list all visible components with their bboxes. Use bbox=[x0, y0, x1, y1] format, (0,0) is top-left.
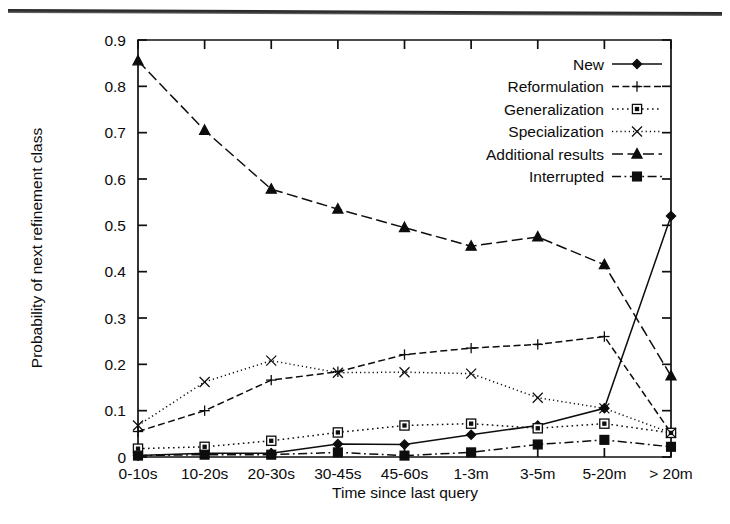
x-tick-label: 20-30s bbox=[248, 465, 296, 482]
y-tick-label: 0.5 bbox=[104, 217, 126, 234]
chart-legend: NewReformulationGeneralizationSpecializa… bbox=[486, 56, 662, 186]
y-axis-title: Probability of next refinement class bbox=[28, 128, 45, 369]
data-point-marker bbox=[199, 405, 209, 415]
data-point-marker bbox=[133, 426, 143, 436]
data-point-marker bbox=[200, 450, 209, 459]
legend-label: Reformulation bbox=[508, 78, 605, 95]
legend-label: Interrupted bbox=[529, 168, 604, 185]
data-point-marker bbox=[333, 448, 342, 457]
legend-label: Additional results bbox=[486, 146, 604, 163]
data-point-marker bbox=[200, 125, 210, 134]
scanned-page: 00.10.20.30.40.50.60.70.80.9 0-10s10-20s… bbox=[0, 0, 730, 524]
y-tick-label: 0.8 bbox=[104, 78, 126, 95]
data-point-marker bbox=[533, 424, 542, 433]
data-point-marker bbox=[467, 448, 476, 457]
data-point-marker bbox=[632, 81, 642, 91]
data-point-marker bbox=[333, 367, 343, 377]
legend-label: Specialization bbox=[508, 123, 604, 140]
legend-item-generalization[interactable]: Generalization bbox=[504, 101, 662, 118]
data-point-marker bbox=[467, 419, 476, 428]
data-point-marker bbox=[400, 440, 409, 449]
x-tick-label: 10-20s bbox=[181, 465, 229, 482]
data-point-marker bbox=[266, 356, 276, 366]
data-point-marker bbox=[333, 428, 342, 437]
legend-item-specialization[interactable]: Specialization bbox=[508, 123, 662, 140]
y-tick-label: 0.3 bbox=[104, 310, 126, 327]
series-line bbox=[138, 216, 671, 456]
legend-label: New bbox=[573, 56, 605, 73]
data-point-marker bbox=[633, 172, 642, 181]
data-point-marker bbox=[667, 442, 676, 451]
y-tick-label: 0.4 bbox=[104, 263, 126, 280]
data-point-marker bbox=[134, 451, 143, 460]
y-tick-label: 0.1 bbox=[104, 402, 126, 419]
x-tick-label: 5-20m bbox=[582, 465, 626, 482]
data-point-marker bbox=[467, 430, 476, 439]
data-point-marker bbox=[400, 421, 409, 430]
y-tick-label: 0.9 bbox=[104, 32, 126, 49]
x-axis-title: Time since last query bbox=[332, 484, 478, 501]
data-point-marker bbox=[399, 349, 409, 359]
x-tick-label: 45-60s bbox=[381, 465, 429, 482]
chart-svg: 00.10.20.30.40.50.60.70.80.9 0-10s10-20s… bbox=[0, 0, 730, 524]
data-point-marker bbox=[533, 339, 543, 349]
legend-item-additional-results[interactable]: Additional results bbox=[486, 146, 662, 163]
data-point-marker bbox=[133, 55, 143, 64]
y-tick-label: 0.6 bbox=[104, 171, 126, 188]
data-point-marker bbox=[200, 377, 210, 387]
data-point-marker bbox=[600, 419, 609, 428]
y-tick-label: 0.2 bbox=[104, 356, 126, 373]
data-point-marker bbox=[599, 331, 609, 341]
legend-item-new[interactable]: New bbox=[573, 56, 662, 73]
data-point-marker bbox=[533, 440, 542, 449]
data-point-marker bbox=[267, 450, 276, 459]
x-tick-label: 30-45s bbox=[314, 465, 362, 482]
x-tick-label: 0-10s bbox=[119, 465, 158, 482]
line-chart-figure: 00.10.20.30.40.50.60.70.80.9 0-10s10-20s… bbox=[0, 0, 730, 524]
data-point-marker bbox=[267, 436, 276, 445]
data-point-marker bbox=[632, 59, 641, 68]
data-point-marker bbox=[400, 367, 410, 377]
y-axis: 00.10.20.30.40.50.60.70.80.9 bbox=[104, 32, 671, 466]
data-point-marker bbox=[632, 104, 641, 113]
data-point-marker bbox=[600, 435, 609, 444]
x-tick-label: 1-3m bbox=[453, 465, 488, 482]
data-point-marker bbox=[266, 375, 276, 385]
x-tick-label: 3-5m bbox=[520, 465, 555, 482]
legend-item-reformulation[interactable]: Reformulation bbox=[508, 78, 663, 95]
data-point-marker bbox=[666, 371, 676, 380]
data-point-marker bbox=[466, 343, 476, 353]
data-point-marker bbox=[466, 369, 476, 379]
legend-item-interrupted[interactable]: Interrupted bbox=[529, 168, 662, 185]
x-tick-label: > 20m bbox=[649, 465, 693, 482]
data-point-marker bbox=[400, 451, 409, 460]
y-tick-label: 0 bbox=[117, 449, 126, 466]
data-point-marker bbox=[533, 232, 543, 241]
data-point-marker bbox=[666, 211, 675, 220]
legend-label: Generalization bbox=[504, 101, 604, 118]
y-tick-label: 0.7 bbox=[104, 124, 126, 141]
data-point-marker bbox=[333, 439, 342, 448]
